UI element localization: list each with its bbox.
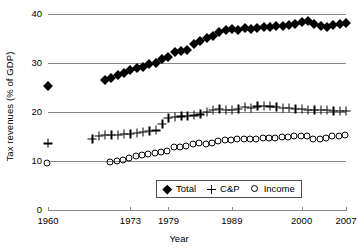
legend-entry-income: Income	[251, 184, 295, 194]
data-point	[309, 19, 319, 29]
data-point	[291, 133, 298, 140]
data-point	[44, 139, 53, 148]
data-point	[303, 16, 313, 26]
data-point	[202, 33, 212, 43]
data-point	[290, 19, 300, 29]
data-point	[265, 22, 275, 32]
data-point	[240, 103, 249, 112]
x-tick-label-1973: 1973	[110, 216, 150, 226]
data-point	[139, 152, 146, 159]
x-tick-1979	[168, 207, 169, 211]
y-tick-label-40: 40	[20, 9, 42, 19]
x-tick-label-1989: 1989	[212, 216, 252, 226]
data-point	[234, 135, 241, 142]
data-point	[132, 153, 139, 160]
data-point	[214, 27, 224, 37]
data-point	[151, 126, 160, 135]
data-point	[158, 119, 167, 128]
data-point	[195, 36, 205, 46]
y-tick-label-20: 20	[20, 107, 42, 117]
y-axis-title-label: Tax revenues (% of GDP)	[4, 51, 15, 161]
data-point	[208, 139, 215, 146]
data-point	[120, 130, 129, 139]
x-tick-1989	[232, 207, 233, 211]
data-point	[271, 21, 281, 31]
x-tick-label-1979: 1979	[148, 216, 188, 226]
data-point	[227, 136, 234, 143]
x-tick-1960	[48, 207, 49, 211]
data-point	[189, 39, 199, 49]
legend-entry-total: Total	[163, 184, 196, 194]
data-point	[246, 24, 256, 34]
data-point	[278, 134, 285, 141]
data-point	[176, 46, 186, 56]
data-point	[310, 136, 317, 143]
x-axis-title: Year	[0, 233, 358, 244]
x-tick-label-2000: 2000	[282, 216, 322, 226]
data-point	[316, 21, 326, 31]
data-point	[177, 112, 186, 121]
data-point	[221, 137, 228, 144]
y-tick-label-0: 0	[20, 205, 42, 215]
legend-entry-c-p: C&P	[207, 184, 240, 194]
y-tick-label-10: 10	[20, 156, 42, 166]
data-point	[278, 21, 288, 31]
data-point	[322, 106, 331, 115]
data-point	[316, 136, 323, 143]
data-point	[107, 130, 116, 139]
data-point	[151, 150, 158, 157]
gridline-20	[48, 112, 346, 113]
data-point	[132, 63, 142, 73]
data-point	[113, 70, 123, 80]
data-point	[233, 25, 243, 35]
data-point	[164, 52, 174, 62]
data-point	[170, 112, 179, 121]
gridline-10	[48, 161, 346, 162]
data-point	[145, 126, 154, 135]
data-point	[88, 134, 97, 143]
data-point	[329, 133, 336, 140]
x-tick-2007	[346, 207, 347, 211]
data-point	[240, 135, 247, 142]
data-point	[101, 131, 110, 140]
data-point	[310, 106, 319, 115]
data-point	[177, 143, 184, 150]
data-point	[253, 102, 262, 111]
data-point	[43, 81, 53, 91]
data-point	[246, 103, 255, 112]
data-point	[164, 113, 173, 122]
data-point	[189, 141, 196, 148]
data-point	[183, 45, 193, 55]
data-point	[132, 128, 141, 137]
data-point	[265, 135, 272, 142]
filled-diamond-icon	[163, 185, 172, 194]
legend-label: Income	[264, 184, 295, 194]
data-point	[94, 132, 103, 141]
data-point	[328, 20, 338, 30]
data-point	[272, 134, 279, 141]
data-point	[253, 135, 260, 142]
data-point	[215, 138, 222, 145]
data-point	[208, 31, 218, 41]
data-point	[170, 47, 180, 57]
y-axis-title: Tax revenues (% of GDP)	[0, 0, 18, 212]
plus-icon	[207, 185, 216, 194]
gridline-40	[48, 14, 346, 15]
data-point	[106, 73, 116, 83]
data-point	[120, 157, 127, 164]
chart-legend: TotalC&PIncome	[156, 180, 302, 198]
data-point	[322, 22, 332, 32]
x-tick-label-1960: 1960	[28, 216, 68, 226]
data-point	[202, 140, 209, 147]
data-point	[297, 132, 304, 139]
x-tick-2000	[302, 207, 303, 211]
data-point	[259, 22, 269, 32]
data-point	[278, 103, 287, 112]
data-point	[297, 17, 307, 27]
data-point	[272, 103, 281, 112]
y-tick-label-30: 30	[20, 58, 42, 68]
data-point	[335, 132, 342, 139]
gridline-30	[48, 63, 346, 64]
data-point	[196, 140, 203, 147]
data-point	[139, 128, 148, 137]
